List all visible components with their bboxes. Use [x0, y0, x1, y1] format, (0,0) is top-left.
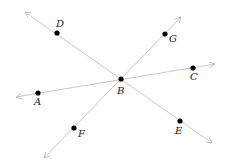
line-AC: [16, 64, 215, 97]
labels-group: BDGCAFE: [33, 18, 198, 139]
point-E: [177, 118, 182, 123]
point-label-G: G: [169, 33, 177, 44]
point-F: [71, 125, 76, 130]
point-label-B: B: [116, 85, 124, 96]
geometry-diagram: BDGCAFE: [0, 0, 226, 164]
point-label-E: E: [174, 125, 183, 136]
point-label-D: D: [55, 18, 64, 29]
point-C: [190, 65, 195, 70]
point-label-F: F: [77, 128, 86, 139]
lines-group: [16, 12, 215, 158]
line-DE: [25, 12, 212, 143]
point-D: [54, 30, 59, 35]
line-FG: [44, 17, 181, 158]
point-A: [35, 90, 40, 95]
point-G: [162, 31, 167, 36]
point-label-C: C: [190, 71, 198, 82]
point-B: [118, 76, 123, 81]
point-label-A: A: [33, 96, 41, 107]
